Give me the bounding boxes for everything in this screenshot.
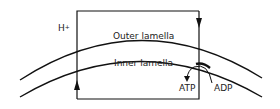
outer-lamella-label: Outer lamella: [113, 32, 174, 41]
proton-charge: +: [65, 23, 70, 30]
membrane-diagram: [0, 0, 280, 109]
atp-label: ATP: [179, 84, 195, 93]
proton-label: H+: [58, 24, 70, 33]
down-arrow-icon: [196, 18, 202, 28]
up-arrow-icon: [74, 80, 80, 90]
inner-lamella-label: Inner lamella: [114, 59, 173, 68]
adp-label: ADP: [214, 84, 233, 93]
